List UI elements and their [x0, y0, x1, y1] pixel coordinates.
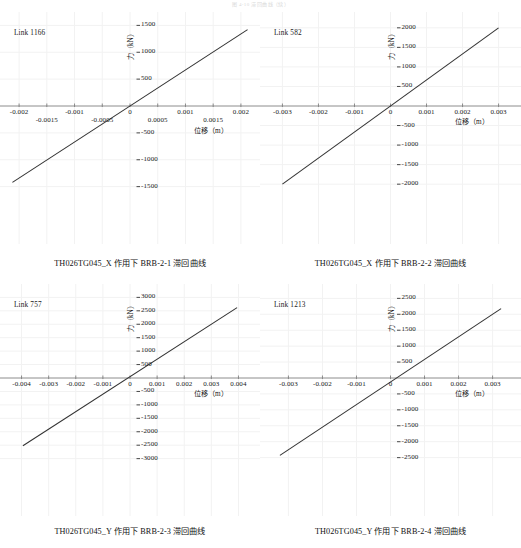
chart-plot-3: Link 1213力（kN）位移（m）-2500-2000-1500-1000-… [260, 280, 521, 518]
x-tick-label: 0.004 [221, 380, 255, 388]
x-tick-label: -0.001 [339, 380, 373, 388]
x-tick-label: 0 [374, 380, 408, 388]
x-axis-title: 位移（m） [194, 388, 228, 398]
y-tick-label: -3000 [141, 454, 158, 462]
chart-cell-2: Link 757力（kN）位移（m）-3000-2500-2000-1500-1… [0, 280, 260, 548]
y-tick-label: -1500 [402, 160, 419, 168]
y-tick-label: 1500 [141, 333, 155, 341]
chart-caption-1: TH026TG045_X 作用下 BRB-2-2 滞回曲线 [260, 256, 521, 268]
x-tick-label: -0.001 [337, 108, 371, 116]
x-tick-label: -0.002 [305, 380, 339, 388]
y-tick-label: -1500 [141, 413, 158, 421]
y-axis-title: 力（kN） [125, 30, 135, 60]
y-tick-label: 1000 [402, 62, 416, 70]
y-tick-label: -500 [141, 128, 154, 136]
y-tick-label: 2000 [402, 23, 416, 31]
y-axis-title: 力（kN） [386, 302, 396, 332]
y-tick-label: 1000 [141, 346, 155, 354]
chart-cell-1: Link 582力（kN）位移（m）-2000-1500-1000-500500… [260, 8, 521, 280]
chart-caption-2: TH026TG045_Y 作用下 BRB-2-3 滞回曲线 [0, 524, 260, 536]
y-tick-label: -1500 [141, 182, 158, 190]
x-axis-title: 位移（m） [194, 125, 228, 135]
y-tick-label: -500 [402, 121, 415, 129]
x-axis-title: 位移（m） [455, 116, 489, 126]
x-tick-label: 0.001 [410, 108, 444, 116]
y-tick-label: 2500 [402, 293, 416, 301]
link-label: Link 1166 [14, 28, 45, 37]
x-tick-label: -0.0015 [30, 116, 64, 124]
chart-cell-0: Link 1166力（kN）位移（m）-1500-1000-5005001000… [0, 8, 260, 280]
y-tick-label: 2000 [141, 319, 155, 327]
x-tick-label: -0.0005 [85, 116, 119, 124]
y-tick-label: 1000 [402, 341, 416, 349]
figure-grid: Link 1166力（kN）位移（m）-1500-1000-5005001000… [0, 8, 521, 548]
x-tick-label: 0.0005 [141, 116, 175, 124]
chart-caption-0: TH026TG045_X 作用下 BRB-2-1 滞回曲线 [0, 256, 260, 268]
x-tick-label: 0.003 [482, 108, 516, 116]
y-tick-label: 1500 [402, 42, 416, 50]
y-tick-label: -2000 [402, 179, 419, 187]
y-tick-label: -1000 [402, 405, 419, 413]
chart-plot-1: Link 582力（kN）位移（m）-2000-1500-1000-500500… [260, 8, 521, 246]
x-tick-label: -0.003 [271, 380, 305, 388]
y-tick-label: 1500 [402, 325, 416, 333]
y-tick-label: -2500 [141, 440, 158, 448]
x-tick-label: 0.002 [442, 380, 476, 388]
x-tick-label: 0.002 [224, 108, 258, 116]
y-axis-title: 力（kN） [386, 30, 396, 60]
y-tick-label: -2000 [141, 427, 158, 435]
x-axis-title: 位移（m） [455, 388, 489, 398]
link-label: Link 1213 [274, 300, 306, 309]
y-tick-label: 500 [141, 360, 152, 368]
y-tick-label: 1000 [141, 47, 155, 55]
chart-caption-3: TH026TG045_Y 作用下 BRB-2-4 滞回曲线 [260, 524, 521, 536]
y-tick-label: -1000 [402, 140, 419, 148]
x-tick-label: -0.002 [301, 108, 335, 116]
x-tick-label: 0.002 [446, 108, 480, 116]
y-tick-label: -2500 [402, 453, 419, 461]
chart-plot-2: Link 757力（kN）位移（m）-3000-2500-2000-1500-1… [0, 280, 260, 518]
y-axis-title: 力（kN） [125, 302, 135, 332]
x-tick-label: 0.001 [408, 380, 442, 388]
chart-plot-0: Link 1166力（kN）位移（m）-1500-1000-5005001000… [0, 8, 260, 246]
x-tick-label: 0 [374, 108, 408, 116]
y-tick-label: 2500 [141, 306, 155, 314]
y-tick-label: -1000 [141, 400, 158, 408]
x-tick-label: -0.003 [265, 108, 299, 116]
link-label: Link 582 [274, 28, 302, 37]
y-tick-label: 500 [402, 81, 413, 89]
y-tick-label: 3000 [141, 292, 155, 300]
chart-cell-3: Link 1213力（kN）位移（m）-2500-2000-1500-1000-… [260, 280, 521, 548]
y-tick-label: 500 [141, 74, 152, 82]
y-tick-label: -500 [402, 389, 415, 397]
x-tick-label: 0.003 [476, 380, 510, 388]
y-tick-label: -1500 [402, 421, 419, 429]
y-tick-label: 1500 [141, 20, 155, 28]
x-tick-label: 0.0015 [196, 116, 230, 124]
y-tick-label: -1000 [141, 155, 158, 163]
y-tick-label: 2000 [402, 309, 416, 317]
y-tick-label: -2000 [402, 437, 419, 445]
y-tick-label: 500 [402, 357, 413, 365]
link-label: Link 757 [14, 300, 42, 309]
